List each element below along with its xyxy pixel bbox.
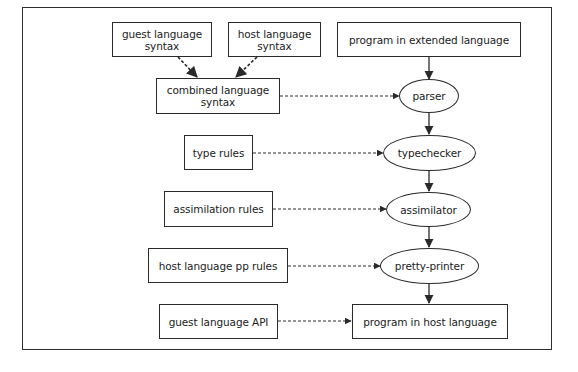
node-label: program in host language [363, 316, 497, 328]
node-label: host language syntax [238, 28, 312, 52]
node-guest-language-api: guest language API [159, 304, 278, 339]
node-combined-language-syntax: combined language syntax [156, 78, 280, 114]
node-label: assimilator [400, 204, 457, 216]
node-label: host language pp rules [159, 260, 278, 272]
node-label: guest language syntax [122, 28, 202, 52]
node-host-language-pp-rules: host language pp rules [148, 248, 288, 283]
node-parser: parser [399, 79, 459, 113]
node-assimilator: assimilator [386, 192, 471, 227]
node-label: pretty-printer [395, 260, 464, 272]
pipeline-diagram: guest language syntax host language synt… [0, 0, 578, 372]
node-pretty-printer: pretty-printer [380, 248, 479, 284]
node-host-language-syntax: host language syntax [228, 22, 321, 57]
edge-host-syntax-to-combined [236, 57, 257, 77]
node-typechecker: typechecker [383, 135, 476, 171]
node-label: combined language syntax [167, 84, 269, 108]
node-program-in-extended-language: program in extended language [337, 22, 521, 57]
node-guest-language-syntax: guest language syntax [112, 22, 212, 57]
node-label: type rules [193, 147, 245, 159]
node-assimilation-rules: assimilation rules [164, 191, 273, 227]
node-label: program in extended language [349, 34, 509, 46]
node-label: assimilation rules [173, 203, 263, 215]
node-type-rules: type rules [184, 135, 253, 170]
node-label: typechecker [398, 147, 462, 159]
edge-guest-syntax-to-combined [178, 57, 197, 77]
node-program-in-host-language: program in host language [352, 304, 508, 339]
node-label: guest language API [169, 316, 269, 328]
node-label: parser [412, 90, 445, 102]
